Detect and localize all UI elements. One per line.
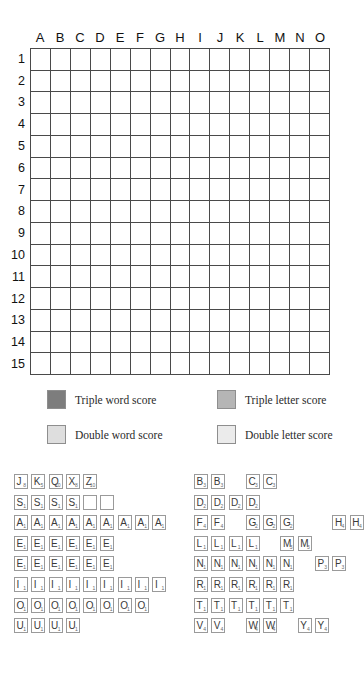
board-cell-k5-double-word[interactable] — [230, 136, 250, 158]
tile-z[interactable]: Z10 — [83, 474, 97, 489]
board-cell-g8-plain[interactable] — [151, 201, 171, 223]
board-cell-d3-plain[interactable] — [91, 92, 111, 114]
board-cell-k7-plain[interactable] — [230, 179, 250, 201]
board-cell-o12-double-letter[interactable] — [310, 288, 330, 310]
board-cell-a8-triple-word[interactable] — [31, 201, 51, 223]
tile-o[interactable]: O1 — [14, 598, 28, 613]
board-cell-c14-plain[interactable] — [71, 332, 91, 354]
board-cell-c9-double-letter[interactable] — [71, 223, 91, 245]
board-cell-j12-plain[interactable] — [210, 288, 230, 310]
tile-i[interactable]: I1 — [118, 577, 132, 592]
board-cell-f5-plain[interactable] — [131, 136, 151, 158]
tile-o[interactable]: O1 — [49, 598, 63, 613]
board-cell-m13-double-word[interactable] — [270, 310, 290, 332]
board-cell-m11-plain[interactable] — [270, 266, 290, 288]
board-cell-i12-plain[interactable] — [190, 288, 210, 310]
board-cell-l3-plain[interactable] — [250, 92, 270, 114]
tile-u[interactable]: U1 — [49, 618, 63, 633]
board-cell-l10-plain[interactable] — [250, 245, 270, 267]
tile-i[interactable]: I1 — [100, 577, 114, 592]
board-cell-i6-plain[interactable] — [190, 158, 210, 180]
board-cell-d13-plain[interactable] — [91, 310, 111, 332]
board-cell-n14-double-word[interactable] — [290, 332, 310, 354]
board-cell-n4-plain[interactable] — [290, 114, 310, 136]
tile-e[interactable]: E1 — [49, 536, 63, 551]
board-cell-k1-plain[interactable] — [230, 49, 250, 71]
board-cell-m3-double-word[interactable] — [270, 92, 290, 114]
board-cell-m14-plain[interactable] — [270, 332, 290, 354]
board-cell-h3-plain[interactable] — [171, 92, 191, 114]
tile-u[interactable]: U1 — [31, 618, 45, 633]
board-cell-m6-plain[interactable] — [270, 158, 290, 180]
board-cell-f2-triple-letter[interactable] — [131, 71, 151, 93]
board-cell-k8-plain[interactable] — [230, 201, 250, 223]
board-cell-n5-plain[interactable] — [290, 136, 310, 158]
board-cell-k11-double-word[interactable] — [230, 266, 250, 288]
board-cell-m12-plain[interactable] — [270, 288, 290, 310]
board-cell-n11-plain[interactable] — [290, 266, 310, 288]
tile-e[interactable]: E1 — [66, 536, 80, 551]
board-cell-j11-plain[interactable] — [210, 266, 230, 288]
board-cell-o9-plain[interactable] — [310, 223, 330, 245]
board-cell-l8-double-letter[interactable] — [250, 201, 270, 223]
board-cell-a2-plain[interactable] — [31, 71, 51, 93]
board-cell-d15-double-letter[interactable] — [91, 353, 111, 375]
tile-p[interactable]: P3 — [332, 556, 346, 571]
tile-b[interactable]: B3 — [194, 474, 208, 489]
tile-s[interactable]: S1 — [14, 495, 28, 510]
tile-u[interactable]: U1 — [66, 618, 80, 633]
board-cell-i9-double-letter[interactable] — [190, 223, 210, 245]
board-cell-j9-plain[interactable] — [210, 223, 230, 245]
board-cell-g2-plain[interactable] — [151, 71, 171, 93]
board-cell-i3-double-letter[interactable] — [190, 92, 210, 114]
board-cell-a12-double-letter[interactable] — [31, 288, 51, 310]
tile-d[interactable]: D2 — [229, 495, 243, 510]
tile-o[interactable]: O1 — [135, 598, 149, 613]
tile-a[interactable]: A1 — [31, 515, 45, 530]
board-cell-b9-plain[interactable] — [51, 223, 71, 245]
tile-i[interactable]: I1 — [66, 577, 80, 592]
board-cell-i1-plain[interactable] — [190, 49, 210, 71]
tile-q[interactable]: Q10 — [49, 474, 63, 489]
tile-x[interactable]: X8 — [66, 474, 80, 489]
board-cell-o5-plain[interactable] — [310, 136, 330, 158]
tile-n[interactable]: N1 — [246, 556, 260, 571]
board-cell-m10-plain[interactable] — [270, 245, 290, 267]
tile-e[interactable]: E1 — [31, 556, 45, 571]
board-cell-a1-triple-word[interactable] — [31, 49, 51, 71]
board-cell-k13-plain[interactable] — [230, 310, 250, 332]
board-cell-h12-double-letter[interactable] — [171, 288, 191, 310]
board-cell-a5-plain[interactable] — [31, 136, 51, 158]
board-cell-n1-plain[interactable] — [290, 49, 310, 71]
board-cell-e11-double-word[interactable] — [111, 266, 131, 288]
board-cell-c15-plain[interactable] — [71, 353, 91, 375]
board-cell-f6-triple-letter[interactable] — [131, 158, 151, 180]
board-cell-e9-plain[interactable] — [111, 223, 131, 245]
board-cell-l2-plain[interactable] — [250, 71, 270, 93]
board-cell-d2-plain[interactable] — [91, 71, 111, 93]
board-cell-d11-plain[interactable] — [91, 266, 111, 288]
board-cell-h6-plain[interactable] — [171, 158, 191, 180]
tile-e[interactable]: E1 — [31, 536, 45, 551]
board-cell-f4-plain[interactable] — [131, 114, 151, 136]
tile-d[interactable]: D2 — [211, 495, 225, 510]
tile-a[interactable]: A1 — [100, 515, 114, 530]
tile-i[interactable]: I1 — [152, 577, 166, 592]
tile-v[interactable]: V4 — [211, 618, 225, 633]
board-cell-m7-double-letter[interactable] — [270, 179, 290, 201]
board-cell-g6-plain[interactable] — [151, 158, 171, 180]
board-cell-l13-plain[interactable] — [250, 310, 270, 332]
board-cell-j4-plain[interactable] — [210, 114, 230, 136]
board-cell-g12-plain[interactable] — [151, 288, 171, 310]
board-cell-c12-plain[interactable] — [71, 288, 91, 310]
board-cell-h10-plain[interactable] — [171, 245, 191, 267]
board-cell-e4-plain[interactable] — [111, 114, 131, 136]
tile-m[interactable]: M3 — [298, 536, 312, 551]
board-cell-e8-plain[interactable] — [111, 201, 131, 223]
board-cell-a3-plain[interactable] — [31, 92, 51, 114]
board-cell-d8-double-letter[interactable] — [91, 201, 111, 223]
board-cell-g7-double-letter[interactable] — [151, 179, 171, 201]
board-cell-h2-plain[interactable] — [171, 71, 191, 93]
tile-v[interactable]: V4 — [194, 618, 208, 633]
board-cell-b10-triple-letter[interactable] — [51, 245, 71, 267]
